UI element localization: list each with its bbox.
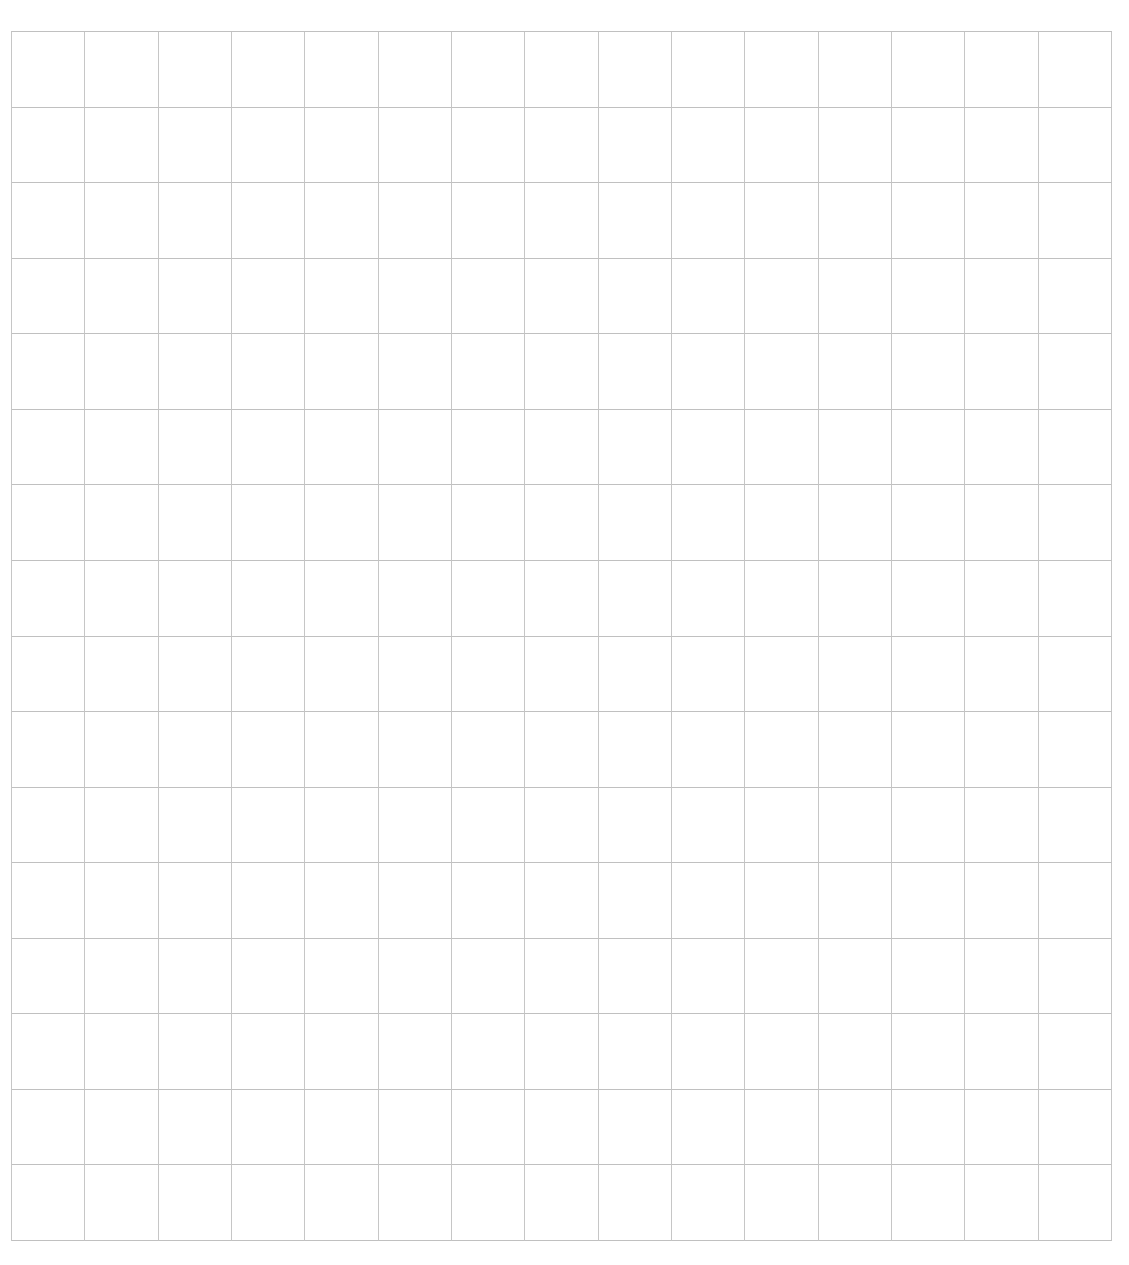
grid-cell <box>85 637 158 713</box>
grid-cell <box>525 108 598 184</box>
grid-cell <box>452 410 525 486</box>
grid-cell <box>379 561 452 637</box>
grid-cell <box>525 334 598 410</box>
grid-cell <box>672 334 745 410</box>
grid-cell <box>12 334 85 410</box>
grid-cell <box>452 1014 525 1090</box>
grid-cell <box>599 637 672 713</box>
grid-cell <box>232 485 305 561</box>
grid-cell <box>85 1165 158 1241</box>
grid-cell <box>525 1165 598 1241</box>
grid-cell <box>305 32 378 108</box>
grid-cell <box>12 712 85 788</box>
grid-cell <box>452 561 525 637</box>
grid-cell <box>965 1090 1038 1166</box>
grid-cell <box>745 183 818 259</box>
grid-cell <box>159 32 232 108</box>
grid-cell <box>1039 712 1112 788</box>
grid-cell <box>12 939 85 1015</box>
grid-cell <box>672 485 745 561</box>
grid-cell <box>819 1090 892 1166</box>
grid-cell <box>85 108 158 184</box>
grid-cell <box>965 939 1038 1015</box>
grid-cell <box>305 939 378 1015</box>
grid-cell <box>12 410 85 486</box>
grid-cell <box>599 788 672 864</box>
grid-cell <box>599 1165 672 1241</box>
grid-cell <box>12 259 85 335</box>
grid-cell <box>12 32 85 108</box>
grid-cell <box>672 561 745 637</box>
grid-cell <box>819 410 892 486</box>
grid-cell <box>12 788 85 864</box>
grid-cell <box>745 334 818 410</box>
grid-cell <box>892 485 965 561</box>
grid-cell <box>525 259 598 335</box>
grid-cell <box>819 561 892 637</box>
grid-cell <box>1039 108 1112 184</box>
grid-cell <box>12 863 85 939</box>
grid-cell <box>232 561 305 637</box>
grid-cell <box>452 334 525 410</box>
grid-cell <box>85 939 158 1015</box>
grid-cell <box>305 788 378 864</box>
grid-cell <box>599 1090 672 1166</box>
grid-cell <box>379 1090 452 1166</box>
grid-cell <box>452 939 525 1015</box>
grid-cell <box>745 1090 818 1166</box>
grid-cell <box>379 259 452 335</box>
grid-cell <box>159 561 232 637</box>
grid-cell <box>232 863 305 939</box>
grid-cell <box>525 32 598 108</box>
grid-cell <box>159 712 232 788</box>
grid-cell <box>819 183 892 259</box>
grid-cell <box>379 1165 452 1241</box>
grid-cell <box>965 259 1038 335</box>
grid-cell <box>379 788 452 864</box>
grid-cell <box>892 1090 965 1166</box>
grid-cell <box>892 939 965 1015</box>
grid-cell <box>452 32 525 108</box>
grid-cell <box>85 1014 158 1090</box>
grid-cell <box>819 637 892 713</box>
grid-paper <box>11 31 1112 1241</box>
grid-cell <box>745 1014 818 1090</box>
grid-cell <box>85 334 158 410</box>
grid-cell <box>965 863 1038 939</box>
grid-cell <box>379 1014 452 1090</box>
grid-cell <box>819 712 892 788</box>
grid-cell <box>305 561 378 637</box>
grid-cell <box>599 259 672 335</box>
grid-cell <box>379 183 452 259</box>
grid-cell <box>379 485 452 561</box>
grid-cell <box>452 259 525 335</box>
grid-cell <box>159 485 232 561</box>
grid-cell <box>745 863 818 939</box>
grid-cell <box>305 863 378 939</box>
grid-cell <box>745 561 818 637</box>
grid-cell <box>232 712 305 788</box>
grid-cell <box>965 637 1038 713</box>
grid-cell <box>305 712 378 788</box>
grid-cell <box>452 637 525 713</box>
grid-cell <box>672 1165 745 1241</box>
grid-cell <box>1039 32 1112 108</box>
grid-cell <box>819 939 892 1015</box>
grid-cell <box>85 485 158 561</box>
grid-cell <box>965 712 1038 788</box>
grid-cell <box>232 1014 305 1090</box>
grid-cell <box>379 410 452 486</box>
grid-cell <box>672 712 745 788</box>
grid-cell <box>305 637 378 713</box>
grid-cell <box>452 183 525 259</box>
grid-cell <box>232 788 305 864</box>
grid-cell <box>819 32 892 108</box>
grid-cell <box>12 485 85 561</box>
grid-cell <box>745 410 818 486</box>
grid-cell <box>232 1090 305 1166</box>
grid-cell <box>965 108 1038 184</box>
grid-cell <box>159 1165 232 1241</box>
grid-cell <box>672 637 745 713</box>
grid-cell <box>672 788 745 864</box>
grid-cell <box>965 32 1038 108</box>
